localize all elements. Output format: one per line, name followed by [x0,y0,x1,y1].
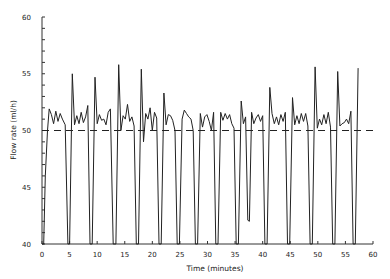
y-tick-label: 60 [22,14,31,22]
x-tick-label: 10 [93,251,102,259]
y-tick-label: 50 [22,127,31,135]
x-tick-label: 60 [369,251,378,259]
x-tick-label: 40 [258,251,267,259]
x-tick-label: 30 [203,251,212,259]
flow-rate-chart: 4045505560 051015202530354045505560 Time… [0,0,390,279]
x-tick-label: 50 [313,251,322,259]
y-tick-label: 55 [22,70,31,78]
flow-rate-line [42,65,358,244]
x-tick-label: 35 [231,251,240,259]
x-tick-label: 5 [67,251,71,259]
x-tick-label: 45 [286,251,295,259]
x-tick-label: 25 [175,251,184,259]
y-tick-label: 40 [22,241,31,249]
y-axis-label: Flow rate (ml/h) [9,100,18,160]
x-axis-label: Time (minutes) [186,264,244,273]
x-tick-label: 20 [148,251,157,259]
x-tick-label: 0 [40,251,44,259]
x-tick-label: 15 [120,251,129,259]
y-tick-label: 45 [22,184,31,192]
x-tick-label: 55 [341,251,350,259]
